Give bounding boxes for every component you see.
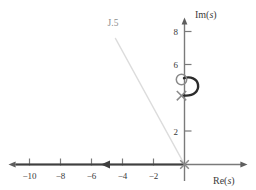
y-tick-label-8: 8 [174, 27, 179, 37]
im-axis-prefix: Im( [195, 9, 210, 21]
real-axis-locus-branch [16, 161, 184, 169]
x-tick-label-minus10: −10 [22, 171, 37, 181]
plot-canvas: 8 6 2 −10 −8 −6 −4 −2 Im(s) Re(s) J.5 [0, 0, 256, 190]
damping-ratio-label: J.5 [108, 18, 119, 28]
root-locus-loop [184, 77, 199, 95]
pole-zero-root-locus-figure: 8 6 2 −10 −8 −6 −4 −2 Im(s) Re(s) J.5 [0, 0, 256, 190]
x-tick-label-minus4: −4 [118, 171, 128, 181]
re-axis-suffix: ) [231, 175, 234, 187]
real-axis [9, 159, 248, 168]
imaginary-axis [182, 18, 192, 182]
x-tick-label-minus6: −6 [87, 171, 97, 181]
imaginary-axis-label: Im(s) [195, 9, 217, 21]
re-axis-prefix: Re( [213, 175, 228, 187]
locus-direction-arrow [101, 161, 110, 169]
y-tick-label-6: 6 [174, 60, 179, 70]
real-axis-label: Re(s) [213, 175, 235, 187]
x-tick-label-minus2: −2 [149, 171, 159, 181]
damping-ratio-line [116, 39, 185, 165]
y-tick-label-2: 2 [174, 127, 179, 137]
im-axis-suffix: ) [213, 9, 216, 21]
x-tick-label-minus8: −8 [56, 171, 66, 181]
